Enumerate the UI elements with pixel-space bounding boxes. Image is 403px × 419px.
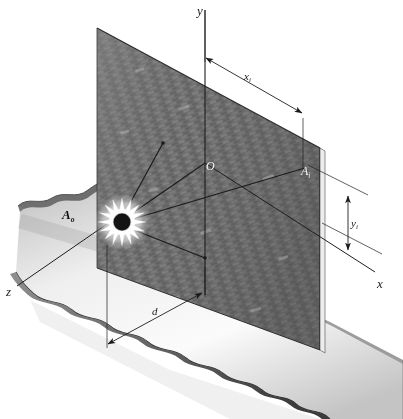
y-i-label: yi [350,217,358,231]
burst-center [114,214,131,231]
d-label: d [152,305,158,317]
x-axis-label: x [376,276,383,291]
ray-upper-endpoint [161,141,165,145]
z-axis-label: z [5,284,11,299]
optics-diagram-figure: xi yi d y x z O Ai Ao [0,0,403,419]
light-source-burst [94,194,150,250]
y-axis-label: y [195,3,203,18]
diagram-canvas: xi yi d y x z O Ai Ao [0,0,403,419]
ray-lower-endpoint [203,256,207,260]
x-i-label: xi [243,70,251,84]
wall-right-thickness [320,148,325,353]
origin-label: O [206,159,215,173]
